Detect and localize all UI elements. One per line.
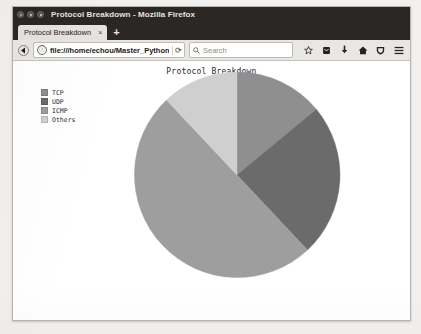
- navigation-toolbar: ⓘ file:///home/echou/Master_Python_Netwo…: [13, 40, 410, 61]
- tab-label: Protocol Breakdown: [24, 28, 91, 37]
- legend-swatch-others: [41, 116, 48, 123]
- url-bar[interactable]: ⓘ file:///home/echou/Master_Python_Netwo…: [33, 42, 185, 58]
- tab-strip: Protocol Breakdown × +: [13, 22, 410, 40]
- legend-label: TCP: [52, 89, 64, 97]
- legend-item: Others: [41, 115, 75, 124]
- tab-protocol-breakdown[interactable]: Protocol Breakdown ×: [18, 25, 107, 40]
- chart-legend: TCP UDP ICMP Others: [39, 86, 78, 126]
- new-tab-button[interactable]: +: [113, 27, 119, 38]
- legend-swatch-icmp: [41, 107, 48, 114]
- legend-item: ICMP: [41, 106, 75, 115]
- legend-item: UDP: [41, 97, 75, 106]
- legend-swatch-udp: [41, 98, 48, 105]
- downloads-icon[interactable]: [339, 45, 350, 56]
- legend-label: Others: [52, 116, 75, 124]
- legend-swatch-tcp: [41, 89, 48, 96]
- bookmark-star-icon[interactable]: [303, 45, 314, 56]
- reload-icon[interactable]: ⟳: [172, 46, 182, 55]
- home-icon[interactable]: [357, 45, 368, 56]
- window-title: Protocol Breakdown - Mozilla Firefox: [51, 10, 195, 19]
- back-arrow-icon[interactable]: [17, 44, 29, 56]
- menu-icon[interactable]: [393, 45, 404, 56]
- minimize-window-icon[interactable]: [27, 11, 34, 18]
- legend-label: UDP: [52, 98, 64, 106]
- window-titlebar: Protocol Breakdown - Mozilla Firefox: [13, 7, 410, 22]
- search-icon: [193, 47, 200, 54]
- browser-window: Protocol Breakdown - Mozilla Firefox Pro…: [12, 6, 411, 321]
- pie-chart: [131, 69, 343, 281]
- close-tab-icon[interactable]: ×: [97, 29, 103, 36]
- shield-icon[interactable]: [375, 45, 386, 56]
- window-controls: [17, 11, 44, 18]
- pocket-icon[interactable]: [321, 45, 332, 56]
- toolbar-icon-group: [297, 45, 406, 56]
- search-placeholder: Search: [203, 46, 227, 55]
- close-window-icon[interactable]: [17, 11, 24, 18]
- site-identity-icon[interactable]: ⓘ: [37, 45, 47, 55]
- legend-item: TCP: [41, 88, 75, 97]
- pie-chart-svg: [131, 69, 343, 281]
- search-bar[interactable]: Search: [189, 42, 293, 58]
- url-text: file:///home/echou/Master_Python_Network…: [50, 46, 169, 55]
- legend-label: ICMP: [52, 107, 68, 115]
- maximize-window-icon[interactable]: [37, 11, 44, 18]
- page-content: Protocol Breakdown TCP UDP ICMP Others: [13, 61, 410, 319]
